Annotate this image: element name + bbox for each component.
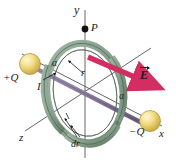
point-p-dot xyxy=(82,26,89,33)
electric-field-label: E xyxy=(140,69,148,81)
current-label: I xyxy=(37,81,41,92)
positive-charge-label: +Q xyxy=(3,72,18,83)
electric-field-vector-bar xyxy=(140,67,149,68)
distance-label-right: a xyxy=(119,91,124,101)
physics-diagram-charged-ring: y P +Q −Q x z a a I r dr E xyxy=(0,0,176,164)
point-p-label: P xyxy=(91,22,98,33)
negative-charge-label: −Q xyxy=(129,126,144,137)
diagram-canvas xyxy=(0,0,176,164)
y-axis-label: y xyxy=(74,4,79,16)
thickness-label: dr xyxy=(71,139,80,149)
positive-charge-sphere xyxy=(20,54,41,75)
x-axis-label: x xyxy=(159,128,164,139)
z-axis-label: z xyxy=(19,132,23,143)
distance-label-left: a xyxy=(52,58,57,68)
radius-label: r xyxy=(81,68,85,78)
